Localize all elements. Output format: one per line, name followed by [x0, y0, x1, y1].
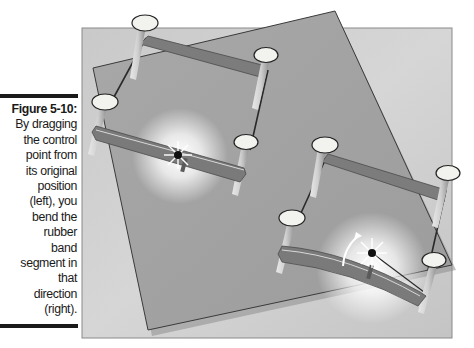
nail-head	[92, 94, 118, 110]
nail-head	[254, 48, 278, 63]
nail-head	[422, 253, 446, 268]
rubber-band-illustration	[0, 0, 474, 348]
control-point-left	[174, 151, 182, 159]
nail-head	[436, 166, 460, 181]
nail-head	[312, 137, 338, 153]
nail-head	[279, 210, 305, 226]
nail-head	[234, 135, 258, 150]
control-point-right	[368, 249, 376, 257]
nail-head	[132, 15, 158, 31]
